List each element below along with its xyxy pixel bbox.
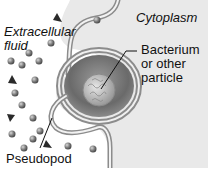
bacterium-label-line3: particle <box>141 71 200 85</box>
bacterium-label-line2: or other <box>141 57 200 71</box>
bacterium-label-line1: Bacterium <box>141 43 200 57</box>
pseudopod-label: Pseudopod <box>6 152 72 166</box>
cytoplasm-label: Cytoplasm <box>136 11 197 25</box>
phagocytosis-diagram: Extracellular fluid Cytoplasm Bacterium … <box>0 0 208 177</box>
extracellular-label-line1: Extracellular <box>4 25 76 39</box>
bacterium-label: Bacterium or other particle <box>141 43 200 85</box>
extracellular-fluid-label: Extracellular fluid <box>4 25 76 53</box>
extracellular-label-line2: fluid <box>4 39 76 53</box>
